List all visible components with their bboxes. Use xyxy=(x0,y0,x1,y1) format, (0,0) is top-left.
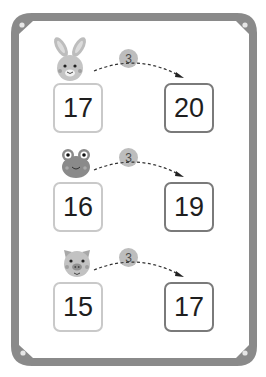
corner-dot xyxy=(19,22,24,27)
answer-box[interactable]: 17 xyxy=(164,282,214,332)
start-number-box: 17 xyxy=(53,83,103,133)
problem-row-1: 3 17 20 xyxy=(0,49,266,159)
dashed-arrow-icon xyxy=(0,248,266,288)
problem-row-2: 3 16 19 xyxy=(0,148,266,258)
dashed-arrow-icon xyxy=(0,148,266,188)
dashed-arrow-icon xyxy=(0,49,266,89)
corner-dot xyxy=(242,22,247,27)
answer-box[interactable]: 19 xyxy=(164,182,214,232)
answer-box[interactable]: 20 xyxy=(164,83,214,133)
start-number-box: 16 xyxy=(53,182,103,232)
problem-row-3: 3 15 17 xyxy=(0,248,266,358)
start-number-box: 15 xyxy=(53,282,103,332)
